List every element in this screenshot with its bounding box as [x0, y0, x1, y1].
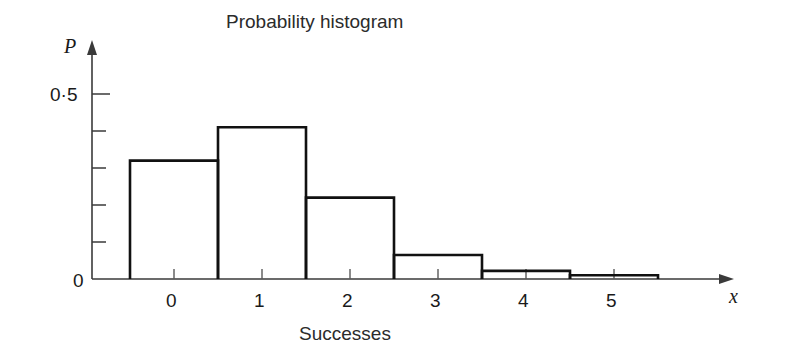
x-tick-label-2: 2: [342, 290, 353, 311]
x-tick-label-3: 3: [430, 290, 441, 311]
y-tick-label-0.5: 0·5: [50, 84, 77, 105]
x-axis-caption: Successes: [299, 323, 391, 344]
x-tick-label-0: 0: [166, 290, 177, 311]
x-tick-label-5: 5: [606, 290, 617, 311]
y-tick-label-0: 0: [73, 270, 84, 291]
probability-histogram-figure: Probability histogram P x 0·5 0 0 1 2 3 …: [0, 0, 789, 358]
figure-background: [0, 0, 789, 358]
chart-title: Probability histogram: [226, 11, 403, 32]
y-axis-label: P: [63, 35, 76, 57]
x-tick-label-1: 1: [254, 290, 265, 311]
x-axis-variable-label: x: [728, 285, 738, 307]
x-tick-label-4: 4: [518, 290, 529, 311]
